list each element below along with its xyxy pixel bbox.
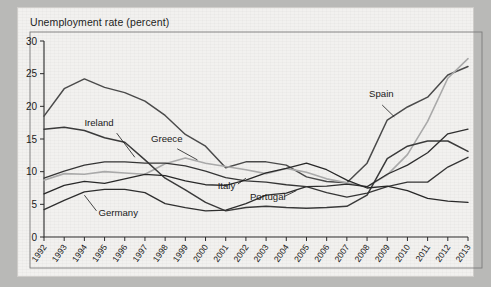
svg-text:2009: 2009 [373,242,392,264]
series-label-ireland: Ireland [84,117,113,128]
series-label-greece: Greece [151,133,182,144]
x-axis: 1992199319941995199619971998199920002001… [29,237,472,264]
y-axis: 051015202530 [26,36,44,243]
svg-text:2013: 2013 [453,242,472,264]
svg-text:1996: 1996 [110,242,129,264]
svg-text:2000: 2000 [191,242,210,264]
svg-text:1997: 1997 [130,242,149,264]
svg-text:1993: 1993 [50,242,69,264]
svg-text:15: 15 [26,134,38,145]
series-label-spain: Spain [369,88,394,99]
svg-text:1998: 1998 [151,242,170,264]
svg-text:2007: 2007 [332,242,351,264]
plot-frame [30,32,482,268]
svg-text:2012: 2012 [433,242,452,264]
leader-line-germany [84,195,96,211]
svg-text:2004: 2004 [272,242,291,264]
svg-text:2003: 2003 [252,242,271,264]
series-lines [44,59,468,211]
svg-text:25: 25 [26,68,38,79]
svg-text:2008: 2008 [353,242,372,264]
svg-text:1994: 1994 [70,242,89,264]
figure-container: Unemployment rate (percent) 051015202530… [0,0,491,287]
svg-text:2005: 2005 [292,242,311,264]
svg-text:2001: 2001 [211,242,230,264]
svg-text:2011: 2011 [413,242,432,263]
series-label-germany: Germany [99,207,139,218]
svg-text:10: 10 [26,166,38,177]
svg-text:30: 30 [26,36,38,47]
svg-text:20: 20 [26,101,38,112]
leader-line-spain [382,105,394,117]
leader-line-ireland [117,133,135,157]
svg-text:0: 0 [31,232,37,243]
svg-text:2002: 2002 [231,242,250,264]
svg-text:5: 5 [31,199,37,210]
series-label-italy: Italy [218,180,236,191]
svg-text:2010: 2010 [393,242,412,264]
series-labels: SpainGreeceIrelandPortugalItalyGermany [84,88,394,218]
svg-text:2006: 2006 [312,242,331,264]
line-chart-plot: 051015202530 199219931994199519961997199… [0,0,491,287]
svg-text:1999: 1999 [171,242,190,264]
svg-text:1992: 1992 [29,242,48,264]
series-label-portugal: Portugal [250,191,286,202]
svg-text:1995: 1995 [90,242,109,264]
